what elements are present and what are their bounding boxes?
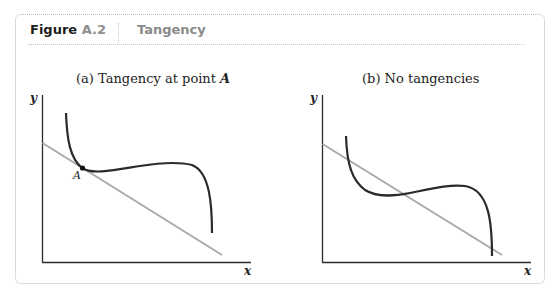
panel-a-x-label: x: [243, 264, 252, 278]
panel-a-straight-line: [43, 143, 223, 255]
point-a-label: A: [72, 169, 81, 182]
panel-a-curve: [66, 113, 212, 233]
panel-a-y-label: y: [29, 91, 38, 105]
panel-a-chart: A y x: [29, 91, 252, 278]
panel-b-x-label: x: [523, 264, 532, 278]
panel-b-chart: y x: [309, 91, 532, 278]
panel-b-y-label: y: [309, 91, 318, 105]
diagram-canvas: A y x y x: [0, 0, 554, 300]
panel-b-curve: [346, 136, 492, 256]
